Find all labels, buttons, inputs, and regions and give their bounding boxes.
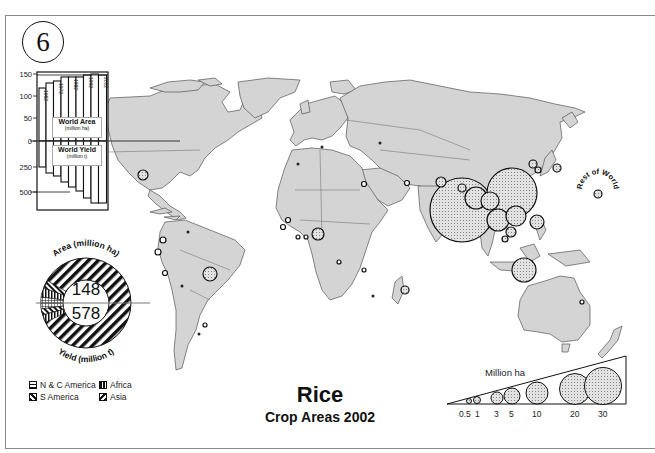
svg-text:1982: 1982 — [73, 79, 79, 90]
yield-total: 578 — [66, 304, 106, 324]
legend-item-africa: Africa — [99, 380, 132, 390]
y-tick: 0 — [12, 137, 32, 146]
australia — [518, 276, 590, 342]
world-area-label: World Area(million ha) — [52, 117, 102, 138]
scale-tick: 30 — [598, 409, 607, 419]
scale-legend — [447, 356, 626, 405]
legend-item-asia: Asia — [99, 392, 127, 402]
new-zealand — [598, 326, 622, 358]
y-tick: 500 — [12, 188, 32, 197]
y-tick: 50 — [12, 114, 32, 123]
backslash-pattern-icon — [29, 393, 37, 401]
scale-tick: 20 — [570, 409, 579, 419]
y-tick: 100 — [12, 92, 32, 101]
scale-tick: 10 — [532, 409, 541, 419]
legend-item-s-america: S America — [29, 392, 79, 402]
svg-text:1992: 1992 — [88, 77, 94, 88]
vertical-pattern-icon — [99, 381, 107, 389]
tasmania — [562, 344, 570, 352]
svg-text:Rest of World: Rest of World — [575, 167, 621, 190]
world-yield-label: World Yield(million t) — [52, 145, 102, 166]
rest-of-world-label: Rest of World — [575, 167, 621, 190]
map-subtitle: Crop Areas 2002 — [230, 409, 410, 425]
y-tick: 150 — [12, 70, 32, 79]
scale-tick: 5 — [509, 409, 514, 419]
indonesia-circle — [512, 258, 536, 282]
scale-tick: 0.5 — [459, 409, 471, 419]
grid-pattern-icon — [29, 381, 37, 389]
svg-text:Yield (million t): Yield (million t) — [56, 346, 115, 364]
slash-pattern-icon — [99, 393, 107, 401]
map-title: Rice — [240, 382, 400, 408]
south-america — [158, 220, 245, 370]
svg-text:Area (million ha): Area (million ha) — [50, 238, 122, 259]
rest-of-world-circle — [594, 190, 602, 198]
scale-tick: 1 — [475, 409, 480, 419]
y-tick: 250 — [12, 163, 32, 172]
svg-text:1962: 1962 — [43, 90, 49, 101]
legend-item-nc-america: N & C America — [29, 380, 96, 390]
british-isles — [300, 100, 310, 114]
scale-tick: 3 — [494, 409, 499, 419]
scale-unit-label: Million ha — [485, 367, 525, 378]
region-donut: Area (million ha) Yield (million t) — [36, 238, 150, 365]
area-total: 148 — [66, 280, 106, 300]
europe — [290, 96, 348, 146]
svg-text:2002: 2002 — [103, 77, 109, 88]
svg-text:1972: 1972 — [58, 83, 64, 94]
new-guinea — [548, 250, 590, 266]
north-america — [104, 84, 262, 190]
